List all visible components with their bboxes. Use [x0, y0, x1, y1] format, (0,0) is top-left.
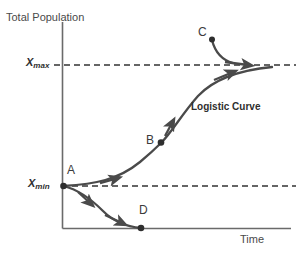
logistic-curve-label: Logistic Curve [191, 102, 260, 112]
point-marker-a [60, 183, 67, 190]
point-marker-b [158, 139, 165, 146]
logistic-growth-diagram: Total Population Time Xmax Xmin A B C D … [0, 0, 306, 257]
diagram-canvas [0, 0, 306, 257]
decline-curve-arrow-lower [105, 215, 122, 223]
overshoot-curve-path [212, 40, 233, 63]
point-label-b: B [146, 134, 154, 146]
point-label-d: D [139, 204, 148, 216]
y-axis-title: Total Population [6, 12, 84, 23]
point-label-c: C [198, 26, 207, 38]
xmax-threshold-label: Xmax [26, 57, 49, 68]
xmin-subscript: min [35, 182, 49, 191]
point-label-a: A [67, 164, 75, 176]
point-marker-c [209, 37, 215, 43]
point-marker-d [138, 225, 145, 232]
xmin-threshold-label: Xmin [28, 178, 50, 189]
logistic-curve-path [64, 67, 273, 186]
decline-curve-path [64, 186, 142, 228]
x-axis-title: Time [240, 234, 264, 245]
xmax-subscript: max [33, 61, 49, 70]
